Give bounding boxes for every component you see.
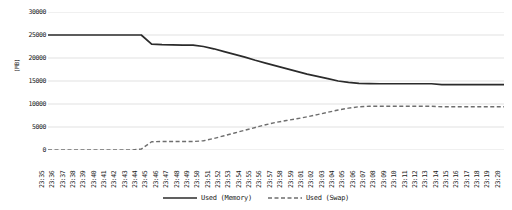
x-tick-label: 23:09: [380, 171, 388, 188]
x-tick-label: 23:20: [494, 171, 502, 188]
x-tick-label: 23:48: [173, 171, 181, 188]
x-tick-label: 23:39: [79, 171, 87, 188]
x-tick-label: 23:17: [463, 171, 471, 188]
series-lines: [48, 35, 504, 150]
chart-legend: Used (Memory) Used (Swap): [0, 191, 512, 205]
y-tick-label: 10000: [6, 100, 46, 108]
x-tick-label: 23:54: [235, 171, 243, 188]
x-tick-label: 23:07: [359, 171, 367, 188]
y-tick-label: 20000: [6, 54, 46, 62]
x-tick-label: 23:46: [152, 171, 160, 188]
x-tick-label: 23:57: [266, 171, 274, 188]
x-tick-label: 23:12: [411, 171, 419, 188]
gridlines: [48, 12, 504, 150]
legend-label-used-swap: Used (Swap): [306, 194, 349, 202]
y-tick-label: 0: [6, 146, 46, 154]
x-tick-label: 23:03: [318, 171, 326, 188]
x-tick-label: 23:58: [276, 171, 284, 188]
x-tick-label: 23:38: [69, 171, 77, 188]
legend-label-used-memory: Used (Memory): [201, 194, 252, 202]
y-tick-label: 30000: [6, 8, 46, 16]
x-tick-label: 23:14: [432, 171, 440, 188]
x-tick-label: 23:41: [100, 171, 108, 188]
memory-swap-line-chart: (MB) 300002500020000150001000050000 23:3…: [0, 0, 512, 210]
legend-swatch-solid-line: [163, 194, 197, 202]
x-tick-label: 23:36: [48, 171, 56, 188]
x-tick-label: 23:02: [307, 171, 315, 188]
x-axis-tick-labels: 23:3523:3623:3723:3823:3923:4023:4123:42…: [48, 152, 504, 188]
x-tick-label: 23:13: [421, 171, 429, 188]
x-tick-label: 23:55: [245, 171, 253, 188]
y-tick-label: 5000: [6, 123, 46, 131]
series-line-0: [48, 35, 504, 85]
x-tick-label: 23:37: [59, 171, 67, 188]
x-tick-label: 23:01: [297, 171, 305, 188]
x-tick-label: 23:35: [38, 171, 46, 188]
x-tick-label: 23:50: [193, 171, 201, 188]
x-tick-label: 23:56: [255, 171, 263, 188]
y-tick-label: 15000: [6, 77, 46, 85]
x-tick-label: 23:42: [110, 171, 118, 188]
legend-swatch-dashed-line: [268, 194, 302, 202]
plot-svg: [48, 12, 504, 150]
x-tick-label: 23:11: [401, 171, 409, 188]
y-axis-tick-labels: 300002500020000150001000050000: [6, 0, 46, 160]
legend-item-used-memory[interactable]: Used (Memory): [163, 194, 252, 202]
x-tick-label: 23:05: [338, 171, 346, 188]
series-line-1: [48, 106, 504, 150]
x-tick-label: 23:40: [90, 171, 98, 188]
x-tick-label: 23:19: [483, 171, 491, 188]
x-tick-label: 23:04: [328, 171, 336, 188]
x-tick-label: 23:18: [473, 171, 481, 188]
x-tick-label: 23:52: [214, 171, 222, 188]
x-tick-label: 23:08: [369, 171, 377, 188]
x-tick-label: 23:44: [131, 171, 139, 188]
legend-item-used-swap[interactable]: Used (Swap): [268, 194, 349, 202]
x-tick-label: 23:53: [224, 171, 232, 188]
x-tick-label: 23:06: [349, 171, 357, 188]
x-tick-label: 23:51: [204, 171, 212, 188]
plot-area: [48, 12, 504, 150]
x-tick-label: 23:16: [452, 171, 460, 188]
x-tick-label: 23:49: [183, 171, 191, 188]
x-tick-label: 23:45: [141, 171, 149, 188]
x-tick-label: 23:47: [162, 171, 170, 188]
x-tick-label: 23:10: [390, 171, 398, 188]
x-tick-label: 23:43: [121, 171, 129, 188]
x-tick-label: 23:59: [287, 171, 295, 188]
y-tick-label: 25000: [6, 31, 46, 39]
x-tick-label: 23:15: [442, 171, 450, 188]
